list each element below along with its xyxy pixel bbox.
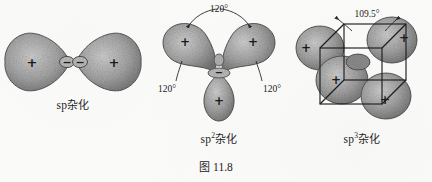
sp3-plus-front-left: +	[331, 73, 341, 87]
sp2-plus-upper-right: +	[248, 35, 258, 49]
caption-sp2: sp2杂化	[146, 130, 292, 146]
figure-caption: 图 11.8	[0, 158, 432, 174]
sp3-nucleus	[346, 54, 370, 70]
diagram-panel-sp2: 120° 120° 120° + + + − sp2杂化	[146, 0, 292, 182]
figure-caption-cn: 图	[199, 161, 210, 174]
caption-sp: sp杂化	[0, 96, 146, 112]
sp2-angle-right: 120°	[263, 84, 281, 94]
figure-caption-number: 11.8	[213, 161, 233, 173]
sp3-plus-back-left: +	[301, 41, 311, 55]
sp3-plus-back-right: +	[399, 31, 409, 45]
sp2-minus-center: −	[215, 67, 223, 78]
sp3-plus-front-bottom: +	[380, 93, 390, 107]
sp2-orbital-figure: 120° 120° 120° + + + −	[146, 0, 292, 128]
caption-sp3-base: sp	[344, 133, 355, 145]
caption-sp3: sp3杂化	[292, 130, 432, 146]
caption-sp2-base: sp	[201, 133, 212, 145]
sp2-plus-upper-left: +	[180, 35, 190, 49]
sp-plus-left: +	[27, 55, 38, 70]
caption-sp3-cn: 杂化	[358, 133, 380, 146]
diagram-panel-sp: + + − − sp杂化	[0, 0, 146, 182]
diagram-panel-sp3: 109.5° + + + + sp3杂化	[292, 0, 432, 182]
sp-minus-right: −	[75, 56, 84, 69]
caption-sp-cn: 杂化	[67, 99, 89, 112]
sp-plus-right: +	[109, 55, 120, 70]
caption-sp2-cn: 杂化	[215, 133, 237, 146]
sp2-angle-top: 120°	[210, 4, 228, 14]
sp2-plus-bottom: +	[214, 94, 224, 108]
sp3-orbital-figure: 109.5° + + + +	[292, 0, 432, 128]
sp2-angle-left: 120°	[158, 84, 176, 94]
caption-sp-base: sp	[56, 99, 67, 111]
sp3-angle-top: 109.5°	[354, 9, 379, 19]
sp-minus-left: −	[62, 56, 71, 69]
